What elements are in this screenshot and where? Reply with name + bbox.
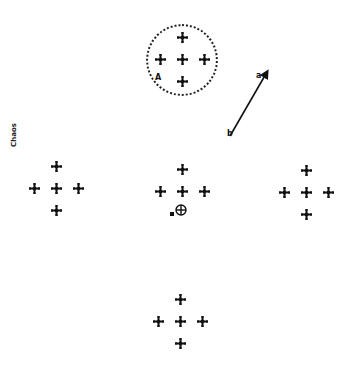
cross-icon: [177, 164, 188, 175]
cross-icon: [301, 165, 312, 176]
cross-icon: [177, 186, 188, 197]
cross-icon: [175, 316, 186, 327]
cross-icon: [301, 209, 312, 220]
crosshair-circle-icon: [175, 204, 187, 216]
cross-icon: [199, 54, 210, 65]
cross-icon: [301, 187, 312, 198]
cross-icon: [51, 161, 62, 172]
cross-icon: [155, 54, 166, 65]
arrow-start-label: b: [227, 130, 233, 138]
cross-icon: [155, 186, 166, 197]
diagram-canvas: Chaos A b a: [0, 0, 349, 366]
cross-icon: [29, 183, 40, 194]
cross-icon: [197, 316, 208, 327]
cross-icon: [177, 54, 188, 65]
cross-icon: [177, 32, 188, 43]
cross-icon: [51, 205, 62, 216]
cross-icon: [175, 294, 186, 305]
arrow-end-label: a: [256, 72, 261, 80]
cross-icon: [177, 76, 188, 87]
square-dot: [170, 212, 174, 216]
cross-icon: [279, 187, 290, 198]
cross-icon: [175, 338, 186, 349]
cross-icon: [51, 183, 62, 194]
cross-icon: [73, 183, 84, 194]
cross-icon: [199, 186, 210, 197]
cross-icon: [323, 187, 334, 198]
cross-icon: [153, 316, 164, 327]
